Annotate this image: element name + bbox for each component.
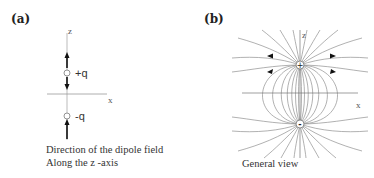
panel-b-caption: General view xyxy=(242,157,298,170)
x-axis-label: x xyxy=(356,100,361,110)
negative-charge-symbol: - xyxy=(298,120,301,129)
positive-charge-symbol: + xyxy=(297,61,304,70)
z-axis-label: z xyxy=(302,30,306,40)
dipole-field-lines-diagram: z x + - xyxy=(0,0,374,178)
arrow-right-icon xyxy=(330,69,336,74)
arrow-left-icon xyxy=(267,69,273,74)
